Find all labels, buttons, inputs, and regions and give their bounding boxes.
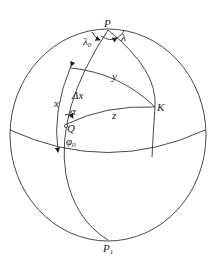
label-z: z	[111, 109, 117, 121]
label-p1: P1	[102, 242, 113, 256]
equator-arc	[10, 130, 205, 153]
sphere-diagram: P λ0 λ y x Δx α K z Q φ0 P1	[0, 0, 221, 262]
meridian-k	[108, 30, 155, 157]
label-phi0: φ0	[66, 135, 76, 149]
label-lambda0: λ0	[82, 35, 92, 49]
label-k: K	[156, 101, 165, 113]
arc-z	[67, 107, 155, 124]
label-delta-x: Δx	[71, 89, 83, 101]
sphere-outline	[10, 29, 206, 241]
label-x: x	[53, 97, 59, 109]
angle-lambda0	[92, 32, 100, 40]
label-lambda: λ	[120, 31, 126, 43]
label-alpha: α	[70, 105, 76, 117]
label-y: y	[111, 70, 117, 82]
label-q: Q	[67, 122, 75, 134]
label-p: P	[103, 17, 111, 29]
